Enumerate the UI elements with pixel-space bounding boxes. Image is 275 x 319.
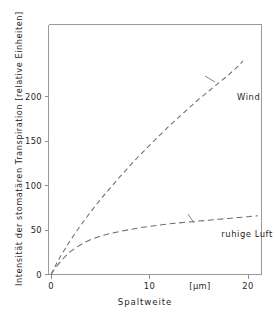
x-tick-label-10: 10 [144,281,155,291]
x-axis-unit-label: [µm] [189,281,210,291]
x-tick-label-20: 20 [242,281,253,291]
series-label-wind: Wind [237,92,260,102]
y-axis-title: Intensität der stomatären Transpiration … [14,11,24,286]
y-tick-label-100: 100 [25,181,42,191]
y-tick-label-200: 200 [25,92,42,102]
y-tick-label-0: 0 [36,270,42,280]
chart-figure: 0 50 100 150 200 0 10 20 [µm] Spaltweite… [0,0,275,319]
series-label-ruhige-luft: ruhige Luft [221,229,273,239]
transpiration-line-chart: 0 50 100 150 200 0 10 20 [µm] Spaltweite… [0,0,275,319]
y-tick-label-50: 50 [31,225,42,235]
y-tick-label-150: 150 [25,136,42,146]
x-tick-label-0: 0 [48,281,54,291]
x-axis-title: Spaltweite [118,297,172,307]
